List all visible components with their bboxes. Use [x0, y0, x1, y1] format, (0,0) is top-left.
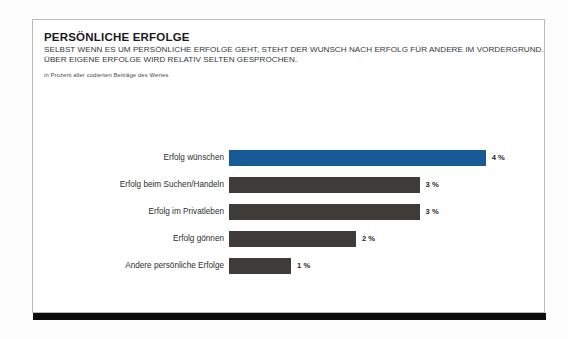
bar-value-label: 2 %	[362, 233, 375, 245]
bar-value-label: 3 %	[426, 179, 439, 191]
bar-fill	[229, 231, 356, 247]
bar-value-label: 4 %	[492, 152, 505, 164]
bar-fill	[229, 204, 420, 220]
bar-fill	[229, 150, 486, 166]
bar-category-label: Erfolg im Privatleben	[33, 205, 224, 219]
bar-category-label: Erfolg wünschen	[33, 151, 224, 165]
bar-value-label: 3 %	[426, 206, 439, 218]
bar-track: 4 %	[229, 150, 544, 166]
bar-track: 3 %	[229, 177, 544, 193]
bar-track: 3 %	[229, 204, 544, 220]
chart-note: in Prozent aller codierten Beiträge des …	[44, 72, 532, 78]
bar-category-label: Erfolg beim Suchen/Handeln	[33, 178, 224, 192]
bar-fill	[229, 258, 291, 274]
subtitle-line-1: SELBST WENN ES UM PERSÖNLICHE ERFOLGE GE…	[44, 45, 532, 55]
slide-frame: PERSÖNLICHE ERFOLGE SELBST WENN ES UM PE…	[32, 19, 545, 313]
subtitle-line-2: ÜBER EIGENE ERFOLGE WIRD RELATIV SELTEN …	[44, 55, 532, 65]
bar-track: 2 %	[229, 231, 544, 247]
bar-row: Erfolg gönnen2 %	[33, 231, 544, 247]
bar-chart: Erfolg wünschen4 %Erfolg beim Suchen/Han…	[33, 150, 544, 310]
bar-row: Andere persönliche Erfolge1 %	[33, 258, 544, 274]
bar-category-label: Erfolg gönnen	[33, 232, 224, 246]
header-block: PERSÖNLICHE ERFOLGE SELBST WENN ES UM PE…	[44, 31, 532, 78]
bar-category-label: Andere persönliche Erfolge	[33, 259, 224, 273]
bar-track: 1 %	[229, 258, 544, 274]
footer-rule	[33, 313, 546, 320]
bar-row: Erfolg im Privatleben3 %	[33, 204, 544, 220]
bar-row: Erfolg wünschen4 %	[33, 150, 544, 166]
bar-value-label: 1 %	[297, 260, 310, 272]
bar-fill	[229, 177, 420, 193]
page-title: PERSÖNLICHE ERFOLGE	[44, 31, 532, 44]
bar-row: Erfolg beim Suchen/Handeln3 %	[33, 177, 544, 193]
